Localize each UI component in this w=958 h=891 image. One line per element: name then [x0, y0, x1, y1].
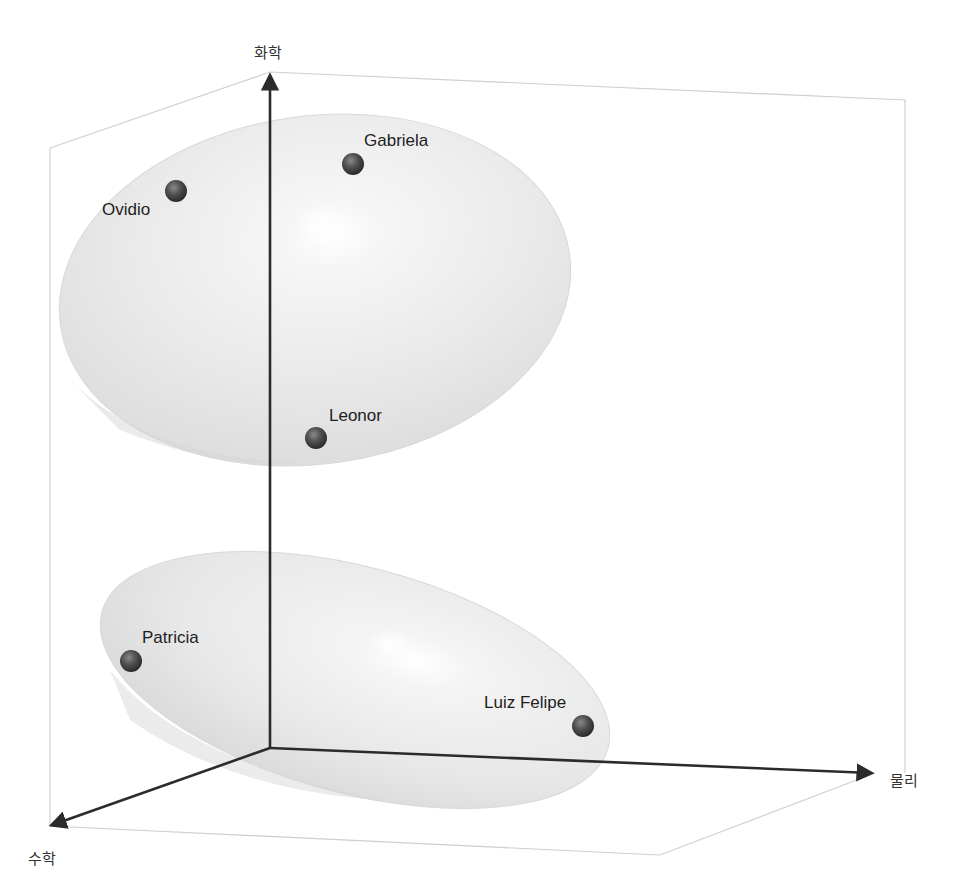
- point-luiz-felipe[interactable]: [572, 715, 594, 737]
- cluster-bottom-blob: [73, 503, 638, 857]
- label-leonor: Leonor: [329, 406, 382, 426]
- label-gabriela: Gabriela: [364, 131, 428, 151]
- label-patricia: Patricia: [142, 628, 199, 648]
- axis-label-chemistry: 화학: [254, 41, 282, 62]
- point-patricia[interactable]: [120, 650, 142, 672]
- point-gabriela[interactable]: [342, 153, 364, 175]
- label-ovidio: Ovidio: [102, 200, 150, 220]
- point-leonor[interactable]: [305, 427, 327, 449]
- point-ovidio[interactable]: [165, 180, 187, 202]
- axis-label-math: 수학: [28, 847, 56, 868]
- math-axis: [52, 748, 270, 825]
- axis-label-physics: 물리: [890, 769, 918, 790]
- label-luiz-felipe: Luiz Felipe: [484, 693, 566, 713]
- 3d-scatter-diagram: 화학 물리 수학 Ovidio Gabriela Leonor Patricia…: [0, 0, 958, 891]
- diagram-canvas: [0, 0, 958, 891]
